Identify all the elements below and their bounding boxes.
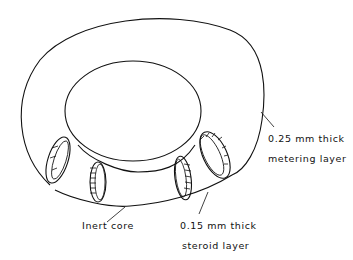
ring-diagram: [0, 0, 353, 260]
leader-line-steroid: [199, 192, 208, 214]
label-steroid-line2: steroid layer: [182, 240, 249, 251]
leader-line-metering: [261, 112, 274, 127]
cut-section-left: [41, 134, 75, 186]
cut-section-right: [194, 127, 237, 182]
label-metering-line2: metering layer: [268, 153, 347, 164]
label-steroid-line1: 0.15 mm thick: [180, 220, 257, 231]
inner-hole-outline: [65, 61, 201, 161]
label-inert-core: Inert core: [82, 220, 134, 231]
core-tube-bottom: [55, 175, 232, 206]
label-metering-line1: 0.25 mm thick: [268, 133, 345, 144]
cut-section-left-center: [90, 162, 106, 202]
cut-section-right-center: [172, 155, 194, 201]
